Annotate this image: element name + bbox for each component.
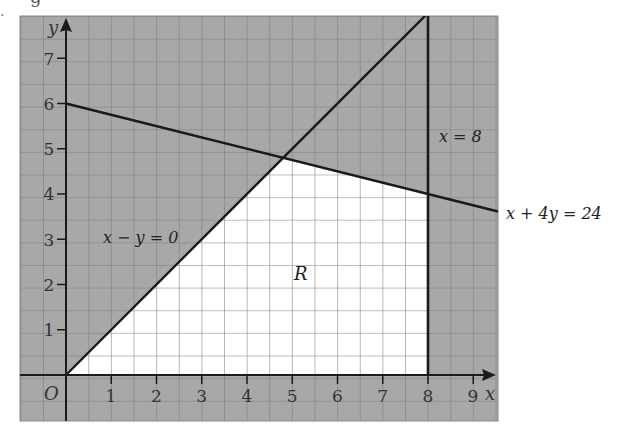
y-tick-label-1: 1 bbox=[44, 320, 55, 340]
y-tick-label-6: 6 bbox=[44, 94, 55, 114]
left-marker: · bbox=[0, 7, 4, 23]
y-tick-label-4: 4 bbox=[44, 184, 55, 204]
x-tick-label-5: 5 bbox=[287, 386, 298, 406]
linear-programming-graph: g · bbox=[0, 0, 630, 434]
x-tick-label-9: 9 bbox=[468, 386, 479, 406]
region-r-label: R bbox=[293, 263, 308, 284]
label-x-plus-4y-eq-24: x + 4y = 24 bbox=[506, 204, 602, 223]
origin-label: O bbox=[44, 383, 59, 404]
x-tick-label-3: 3 bbox=[196, 386, 207, 406]
y-tick-label-3: 3 bbox=[44, 230, 55, 250]
grid bbox=[20, 16, 498, 421]
label-x-eq-8: x = 8 bbox=[439, 127, 482, 146]
x-tick-label-7: 7 bbox=[377, 386, 388, 406]
label-x-minus-y-eq-0: x − y = 0 bbox=[103, 228, 178, 247]
x-tick-label-1: 1 bbox=[106, 386, 117, 406]
x-tick-label-2: 2 bbox=[151, 386, 162, 406]
cropped-heading-fragment: g bbox=[30, 0, 42, 7]
y-tick-label-7: 7 bbox=[44, 49, 55, 69]
x-tick-label-4: 4 bbox=[242, 386, 253, 406]
x-axis-label: x bbox=[485, 383, 495, 404]
y-tick-label-5: 5 bbox=[44, 139, 55, 159]
x-tick-label-6: 6 bbox=[332, 386, 343, 406]
x-tick-label-8: 8 bbox=[423, 386, 434, 406]
y-tick-label-2: 2 bbox=[44, 275, 55, 295]
y-axis-label: y bbox=[47, 17, 59, 38]
